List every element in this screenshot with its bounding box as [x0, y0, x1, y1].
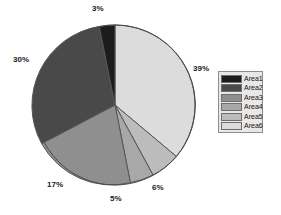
slice-label-area5: 6%	[152, 183, 164, 192]
legend-swatch-icon	[221, 113, 242, 121]
legend-item-area2[interactable]: Area2	[221, 84, 260, 93]
legend-item-area1[interactable]: Area1	[221, 74, 260, 83]
legend-item-area4[interactable]: Area4	[221, 103, 260, 112]
legend-label: Area1	[244, 75, 263, 83]
slice-label-area1: 3%	[92, 4, 104, 13]
legend-swatch-icon	[221, 84, 242, 92]
legend-swatch-icon	[221, 103, 242, 111]
legend-swatch-icon	[221, 122, 242, 130]
legend-item-area5[interactable]: Area5	[221, 112, 260, 121]
slice-label-area3: 17%	[47, 180, 63, 189]
legend-item-area6[interactable]: Area6	[221, 122, 260, 131]
legend-swatch-icon	[221, 75, 242, 83]
pie-chart-screenshot: 3% 39% 6% 5% 17% 30% Area1 Area2 Area3 A…	[0, 0, 281, 215]
legend-label: Area4	[244, 103, 263, 111]
slice-label-area2: 30%	[13, 55, 29, 64]
legend-item-area3[interactable]: Area3	[221, 93, 260, 102]
legend-label: Area2	[244, 84, 263, 92]
chart-legend: Area1 Area2 Area3 Area4 Area5 Area6	[218, 71, 263, 133]
legend-label: Area5	[244, 113, 263, 121]
legend-swatch-icon	[221, 94, 242, 102]
slice-label-area4: 5%	[110, 194, 122, 203]
slice-label-area6: 39%	[193, 64, 209, 73]
pie-slices	[32, 25, 195, 185]
legend-label: Area6	[244, 122, 263, 130]
legend-label: Area3	[244, 94, 263, 102]
